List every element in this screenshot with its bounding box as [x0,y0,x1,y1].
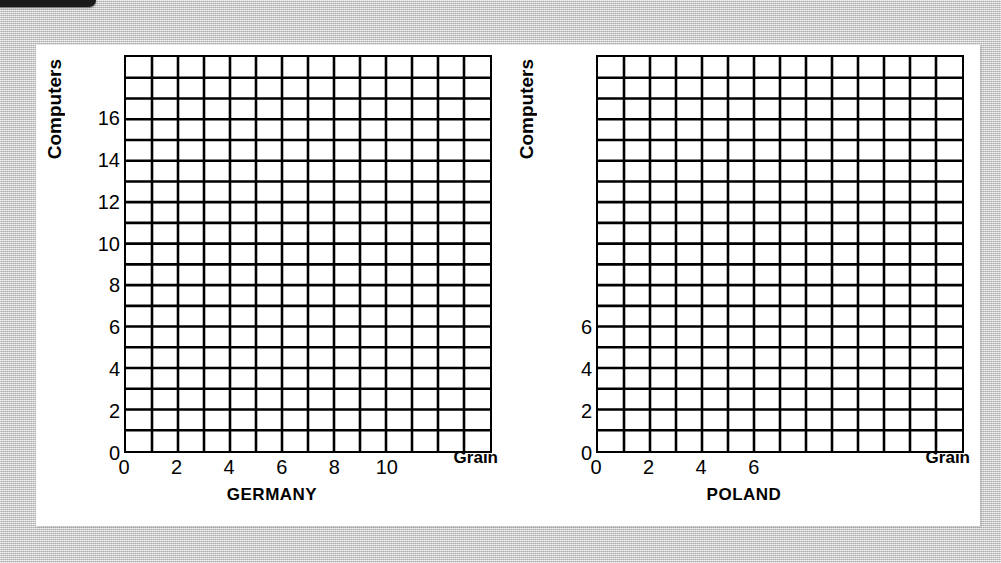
y-tick-label: 2 [109,400,120,423]
plot-area-germany: 0246810121416 0246810 [124,55,492,453]
x-axis-title-poland: Grain [926,448,970,468]
chart-caption-poland: POLAND [508,485,980,505]
y-tick-label: 10 [98,232,120,255]
x-tick-label: 10 [376,456,398,479]
y-tick-label: 12 [98,190,120,213]
plot-area-poland: 0246 0246 [596,55,964,453]
y-tick-label: 6 [109,316,120,339]
y-tick-label: 14 [98,148,120,171]
chart-germany: Computers 0246810121416 0246810 Grain GE… [36,45,508,526]
y-tick-labels-germany: 0246810121416 [80,55,120,453]
x-tick-label: 2 [643,456,654,479]
chart-poland: Computers 0246 0246 Grain POLAND [508,45,980,526]
y-tick-label: 4 [581,358,592,381]
x-tick-label: 0 [590,456,601,479]
worksheet-card: Computers 0246810121416 0246810 Grain GE… [36,45,980,526]
grid-lines-germany [126,57,490,451]
y-tick-label: 8 [109,274,120,297]
x-tick-labels-poland: 0246 [596,453,964,487]
y-tick-label: 16 [98,106,120,129]
grid-lines-poland [598,57,962,451]
x-tick-labels-germany: 0246810 [124,453,492,487]
x-tick-label: 4 [696,456,707,479]
y-tick-labels-poland: 0246 [552,55,592,453]
charts-row: Computers 0246810121416 0246810 Grain GE… [36,45,980,526]
top-left-tab-bar [0,0,96,7]
chart-caption-germany: GERMANY [36,485,508,505]
y-tick-label: 2 [581,400,592,423]
x-tick-label: 4 [224,456,235,479]
grid-poland [596,55,964,453]
x-tick-label: 2 [171,456,182,479]
y-tick-label: 6 [581,316,592,339]
x-tick-label: 8 [329,456,340,479]
x-axis-title-germany: Grain [454,448,498,468]
y-tick-label: 4 [109,358,120,381]
x-tick-label: 6 [276,456,287,479]
y-axis-title-germany: Computers [44,59,66,159]
grid-germany [124,55,492,453]
x-tick-label: 6 [748,456,759,479]
x-tick-label: 0 [118,456,129,479]
y-axis-title-poland: Computers [516,59,538,159]
